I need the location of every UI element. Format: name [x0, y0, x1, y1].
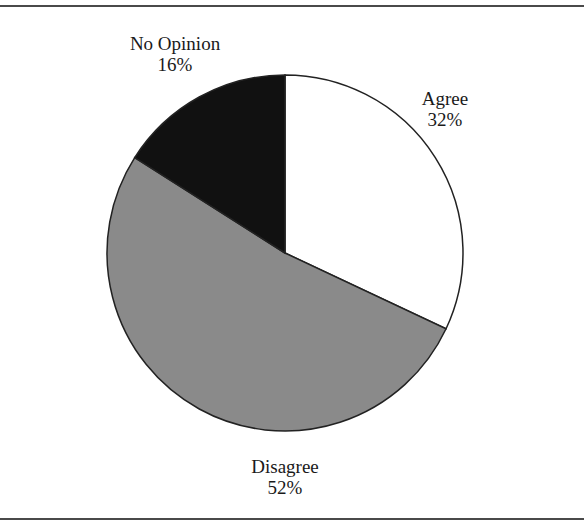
bottom-rule: [0, 518, 584, 520]
label-agree-pct: 32%: [395, 109, 495, 130]
label-disagree-name: Disagree: [220, 456, 350, 477]
label-agree-name: Agree: [395, 88, 495, 109]
label-disagree-pct: 52%: [220, 477, 350, 498]
label-agree: Agree 32%: [395, 88, 495, 130]
label-disagree: Disagree 52%: [220, 456, 350, 498]
pie-chart: [0, 0, 584, 525]
label-no-opinion-name: No Opinion: [100, 33, 250, 54]
label-no-opinion-pct: 16%: [100, 54, 250, 75]
label-no-opinion: No Opinion 16%: [100, 33, 250, 75]
